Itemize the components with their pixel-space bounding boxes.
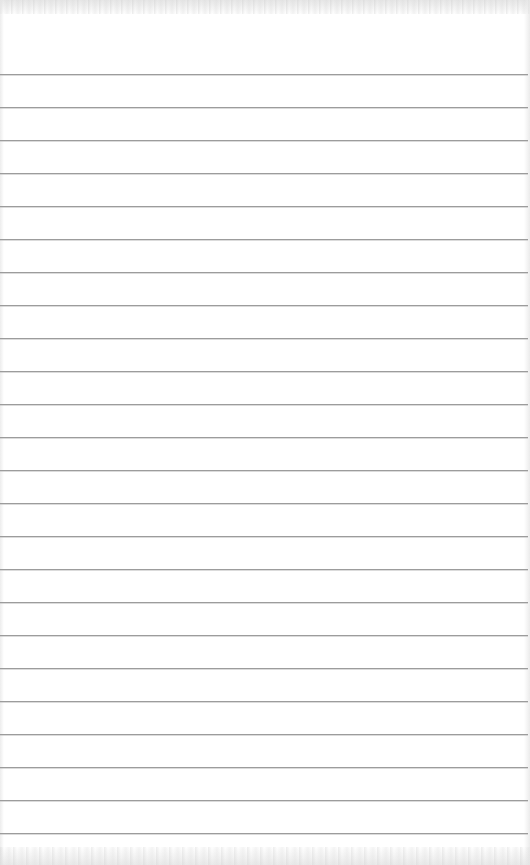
left-edge-shadow: [0, 0, 4, 865]
ruled-line: [0, 272, 528, 273]
ruled-line: [0, 437, 528, 438]
ruled-line: [0, 107, 528, 108]
ruled-line: [0, 635, 528, 636]
perforated-top-edge: [0, 0, 530, 14]
ruled-line: [0, 206, 528, 207]
ruled-line: [0, 668, 528, 669]
ruled-line: [0, 404, 528, 405]
ruled-line: [0, 767, 528, 768]
ruled-line: [0, 833, 528, 834]
right-edge-shadow: [524, 0, 530, 865]
ruled-line: [0, 536, 528, 537]
ruled-line: [0, 470, 528, 471]
ruled-line: [0, 305, 528, 306]
ruled-line: [0, 74, 528, 75]
ruled-line: [0, 734, 528, 735]
ruled-line: [0, 503, 528, 504]
ruled-line: [0, 338, 528, 339]
ruled-line: [0, 569, 528, 570]
ruled-line: [0, 239, 528, 240]
ruled-line: [0, 602, 528, 603]
ruled-line: [0, 800, 528, 801]
notepad-sheet: [0, 0, 530, 865]
ruled-line: [0, 173, 528, 174]
ruled-line: [0, 701, 528, 702]
ruled-line: [0, 140, 528, 141]
ruled-line: [0, 371, 528, 372]
bottom-edge: [0, 847, 530, 865]
